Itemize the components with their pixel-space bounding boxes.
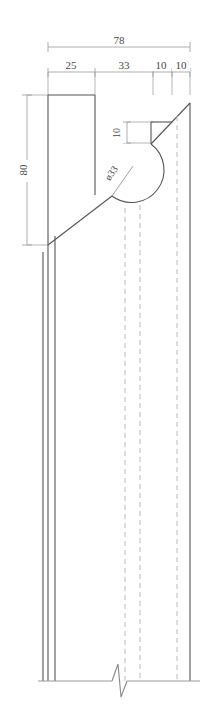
- dim-label-78: 78: [114, 34, 126, 46]
- dim-label-80: 80: [17, 164, 29, 176]
- dim-label-33: 33: [119, 59, 131, 71]
- dim-label-10a: 10: [156, 59, 168, 71]
- hidden-lines: [125, 116, 177, 681]
- technical-drawing-canvas: 78 25 33 10 10: [0, 0, 217, 718]
- part-outline: [43, 95, 190, 681]
- drawing-svg: 78 25 33 10 10: [0, 0, 217, 718]
- dimension-height-80: 80: [17, 95, 48, 245]
- arc-hook-diameter-33: [112, 144, 164, 203]
- dim-label-diameter-33: ø33: [102, 164, 120, 183]
- bottom-break: [38, 664, 200, 697]
- dim-label-25: 25: [66, 59, 78, 71]
- dimension-chain-segments: 25 33 10 10: [48, 58, 190, 95]
- dim-label-10b: 10: [176, 59, 188, 71]
- dimension-overall-width: 78: [48, 33, 190, 52]
- dimension-notch-depth-10: 10: [111, 122, 153, 143]
- edge-peak-slope: [151, 103, 190, 144]
- dim-label-notch-10: 10: [111, 128, 122, 138]
- edge-sloped-face: [48, 196, 112, 245]
- dimension-diameter-33: ø33: [102, 164, 133, 196]
